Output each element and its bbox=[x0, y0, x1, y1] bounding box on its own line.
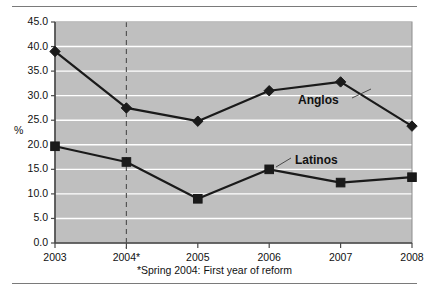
y-axis-tick-label: 35.0 bbox=[14, 64, 48, 76]
y-axis-tick-label: 30.0 bbox=[14, 89, 48, 101]
data-point-marker-latinos bbox=[51, 142, 60, 151]
data-point-marker-latinos bbox=[122, 158, 131, 167]
data-point-marker-latinos bbox=[336, 178, 345, 187]
x-axis-tick-label: 2004* bbox=[101, 251, 151, 263]
y-axis-tick-label: 10.0 bbox=[14, 187, 48, 199]
series-label-latinos: Latinos bbox=[295, 153, 338, 167]
plot-area-background bbox=[55, 22, 412, 243]
chart-footnote: *Spring 2004: First year of reform bbox=[0, 264, 429, 276]
y-axis-tick-label: 40.0 bbox=[14, 40, 48, 52]
x-axis-tick-label: 2006 bbox=[244, 251, 294, 263]
y-axis-tick-label: 5.0 bbox=[14, 211, 48, 223]
x-axis-tick-label: 2007 bbox=[316, 251, 366, 263]
x-axis-tick-label: 2005 bbox=[173, 251, 223, 263]
y-axis-tick-label: 0.0 bbox=[14, 236, 48, 248]
data-point-marker-latinos bbox=[265, 165, 274, 174]
y-axis-tick-label: 20.0 bbox=[14, 138, 48, 150]
x-axis-tick-label: 2003 bbox=[30, 251, 80, 263]
x-axis-tick-label: 2008 bbox=[387, 251, 429, 263]
y-axis-unit-label: % bbox=[14, 124, 23, 136]
y-axis-tick-label: 15.0 bbox=[14, 162, 48, 174]
data-point-marker-latinos bbox=[408, 173, 417, 182]
line-chart-plot bbox=[0, 0, 429, 292]
y-axis-tick-label: 45.0 bbox=[14, 15, 48, 27]
chart-figure: 0.05.010.015.020.025.030.035.040.045.0 2… bbox=[0, 0, 429, 292]
data-point-marker-latinos bbox=[194, 195, 203, 204]
series-label-anglos: Anglos bbox=[298, 93, 339, 107]
